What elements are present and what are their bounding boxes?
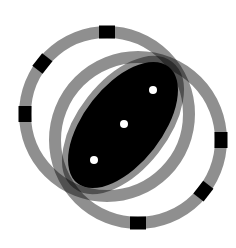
white-dot xyxy=(120,120,128,128)
ring-marker xyxy=(215,132,228,148)
white-dot xyxy=(90,156,98,164)
ring-marker xyxy=(99,26,115,39)
overlapping-rings-diagram xyxy=(0,0,236,248)
ring-marker xyxy=(130,217,146,230)
white-dot xyxy=(149,86,157,94)
ring-marker xyxy=(19,106,32,122)
